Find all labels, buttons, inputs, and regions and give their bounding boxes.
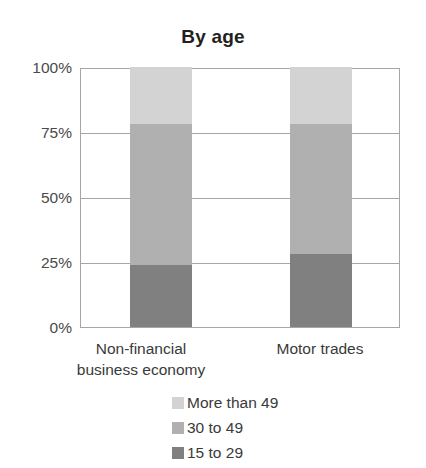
x-axis-label-line-1: Non-financial xyxy=(31,338,251,359)
legend-label: 15 to 29 xyxy=(187,444,243,462)
y-tick-label-100: 100% xyxy=(0,59,72,77)
y-tick-label-0: 0% xyxy=(0,319,72,337)
y-tick-label-50: 50% xyxy=(0,189,72,207)
y-tick-label-75: 75% xyxy=(0,124,72,142)
legend-label: More than 49 xyxy=(187,394,278,412)
y-tick-label-25: 25% xyxy=(0,254,72,272)
bar-non-financial-business-economy[interactable] xyxy=(130,69,192,327)
bar-segment-more-than-49[interactable] xyxy=(130,67,192,124)
bar-segment-30-to-49[interactable] xyxy=(290,124,352,254)
chart-container: By age 100% 75% 50% 25% 0% Non-financial… xyxy=(0,0,426,468)
x-axis-label-motor-trades: Motor trades xyxy=(230,338,410,359)
legend-label: 30 to 49 xyxy=(187,419,243,437)
legend-item-15-to-29[interactable]: 15 to 29 xyxy=(0,440,426,465)
bar-segment-more-than-49[interactable] xyxy=(290,67,352,124)
x-axis-label-line-2: business economy xyxy=(31,359,251,380)
legend-item-30-to-49[interactable]: 30 to 49 xyxy=(0,415,426,440)
bar-segment-15-to-29[interactable] xyxy=(130,265,192,327)
legend: More than 49 30 to 49 15 to 29 xyxy=(0,390,426,465)
plot-area xyxy=(80,68,400,328)
x-axis-label-non-financial-business-economy: Non-financial business economy xyxy=(31,338,251,380)
chart-title: By age xyxy=(0,26,426,48)
x-axis-label-line-1: Motor trades xyxy=(230,338,410,359)
legend-item-more-than-49[interactable]: More than 49 xyxy=(0,390,426,415)
bar-segment-15-to-29[interactable] xyxy=(290,254,352,327)
bar-segment-30-to-49[interactable] xyxy=(130,124,192,264)
legend-swatch-icon xyxy=(172,447,184,459)
legend-swatch-icon xyxy=(172,422,184,434)
bar-motor-trades[interactable] xyxy=(290,69,352,327)
y-axis: 100% 75% 50% 25% 0% xyxy=(0,68,72,328)
legend-swatch-icon xyxy=(172,397,184,409)
